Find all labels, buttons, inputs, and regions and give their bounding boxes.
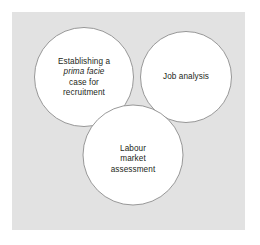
venn-circles-graphic [0,0,260,245]
venn-label-line: recruitment [34,88,134,98]
venn-label-line: Labour [83,144,183,154]
venn-label-job-analysis: Job analysis [146,72,226,82]
venn-label-line: market [83,154,183,164]
venn-label-line: assessment [83,165,183,175]
venn-label-line: case for [34,78,134,88]
venn-label-line: Job analysis [146,72,226,82]
venn-label-line-italic: prima facie [34,67,134,77]
venn-diagram-figure: Establishing a prima facie case for recr… [0,0,260,245]
venn-label-labour-market-assessment: Labour market assessment [83,144,183,175]
venn-label-establishing-prima-facie-case: Establishing a prima facie case for recr… [34,57,134,99]
venn-label-line: Establishing a [34,57,134,67]
